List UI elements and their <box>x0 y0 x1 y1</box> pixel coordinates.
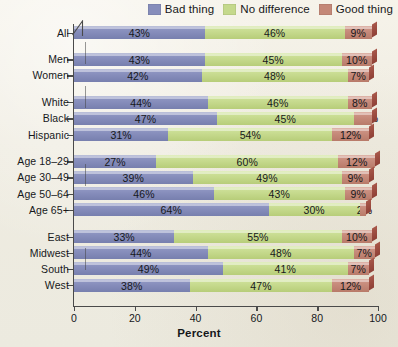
bar-segment-good: 7% <box>348 262 369 275</box>
bar-segment-nodiff: 60% <box>156 155 338 168</box>
bar-segment-good: 9% <box>345 187 372 200</box>
y-axis-label: Midwest <box>30 246 69 259</box>
bar-end-cap <box>372 91 377 107</box>
bar-row: 64%30%2% <box>74 203 378 216</box>
group-guide-line <box>85 42 86 64</box>
bar-segment-nodiff: 48% <box>202 69 348 82</box>
x-axis-tick <box>378 306 379 311</box>
bar-segment-nodiff: 55% <box>174 230 341 243</box>
x-axis-tick <box>74 306 75 311</box>
bar-end-cap <box>369 166 374 182</box>
y-axis-label: South <box>41 262 69 275</box>
bar-segment-good <box>354 112 372 125</box>
x-axis-line <box>73 306 379 307</box>
bar-value-label: 7% <box>357 247 372 259</box>
bar-end-cap <box>369 274 374 290</box>
bar-segment-bad: 47% <box>74 112 217 125</box>
bar-value-label: 43% <box>129 27 150 39</box>
bar-segment-good: 9% <box>345 26 372 39</box>
bar-end-cap <box>375 242 380 258</box>
bar-row: 27%60%12% <box>74 155 378 168</box>
bar-row: 46%43%9% <box>74 187 378 200</box>
bar-value-label: 60% <box>237 156 258 168</box>
bar-value-label: 12% <box>346 156 367 168</box>
x-axis-tick <box>256 306 257 311</box>
legend-label: No difference <box>240 3 310 15</box>
x-axis-tick-label: 60 <box>251 312 263 324</box>
bar-value-label: 30% <box>303 204 324 216</box>
bar-value-label: 44% <box>130 247 151 259</box>
bar-value-label: 43% <box>269 188 290 200</box>
bar-row: 42%48%7% <box>74 69 378 82</box>
bar-value-label: 49% <box>256 172 277 184</box>
bar-end-cap <box>369 258 374 274</box>
bar-value-label: 46% <box>267 97 288 109</box>
bar-row: 39%49%9% <box>74 171 378 184</box>
bar-value-label: 38% <box>121 280 142 292</box>
group-guide-line <box>85 86 86 108</box>
bar-value-label: 46% <box>264 27 285 39</box>
legend-item-good: Good thing <box>319 3 393 15</box>
x-axis-tick-label: 80 <box>311 312 323 324</box>
bar-value-label: 42% <box>127 70 148 82</box>
bar-value-label: 7% <box>351 70 366 82</box>
bar-row: 44%48%7% <box>74 246 378 259</box>
bar-row: 44%46%8% <box>74 96 378 109</box>
y-axis-label: Age 65+ <box>29 203 69 216</box>
bar-row: 33%55%10% <box>74 230 378 243</box>
y-axis-label: Age 30–49 <box>17 171 69 184</box>
bar-segment-bad: 38% <box>74 279 190 292</box>
bar-segment-nodiff: 54% <box>168 128 332 141</box>
bar-end-cap <box>372 107 377 123</box>
x-axis-tick-label: 20 <box>129 312 141 324</box>
y-axis-label: All <box>57 26 69 39</box>
bar-value-label: 12% <box>340 129 361 141</box>
bar-segment-nodiff: 48% <box>208 246 354 259</box>
y-axis-label: Age 18–29 <box>17 155 69 168</box>
bar-segment-good: 12% <box>332 279 368 292</box>
y-axis-label: Hispanic <box>28 128 69 141</box>
y-axis-label: East <box>48 230 69 243</box>
bar-value-label: 46% <box>133 188 154 200</box>
y-axis-label: Men <box>48 53 69 66</box>
bar-segment-good: 7% <box>348 69 369 82</box>
bar-segment-bad: 44% <box>74 246 208 259</box>
y-axis-line <box>73 24 74 306</box>
bar-end-cap <box>372 22 377 38</box>
bar-value-label: 33% <box>113 231 134 243</box>
bar-segment-good: 10% <box>342 53 372 66</box>
bar-segment-bad: 27% <box>74 155 156 168</box>
bar-segment-bad: 43% <box>74 53 205 66</box>
chart-legend: Bad thingNo differenceGood thing <box>0 1 398 17</box>
bar-value-label: 10% <box>346 54 367 66</box>
bar-value-label: 47% <box>250 280 271 292</box>
bar-value-label: 55% <box>247 231 268 243</box>
legend-label: Bad thing <box>165 3 215 15</box>
bar-value-label: 7% <box>351 263 366 275</box>
legend-item-bad: Bad thing <box>148 3 215 15</box>
bar-value-label: 8% <box>352 97 367 109</box>
bar-segment-bad: 31% <box>74 128 168 141</box>
group-guide-line <box>85 248 86 270</box>
x-axis-tick-label: 100 <box>369 312 387 324</box>
bar-segment-bad: 44% <box>74 96 208 109</box>
bar-segment-nodiff: 30% <box>269 203 360 216</box>
bar-segment-bad: 49% <box>74 262 223 275</box>
y-axis-label: Black <box>43 112 69 125</box>
bar-end-cap <box>372 226 377 242</box>
legend-item-nodiff: No difference <box>223 3 310 15</box>
bar-segment-bad: 39% <box>74 171 193 184</box>
y-axis-label: White <box>42 96 69 109</box>
x-axis-tick <box>196 306 197 311</box>
bar-segment-good: 12% <box>332 128 368 141</box>
bar-segment-bad: 42% <box>74 69 202 82</box>
bar-value-label: 44% <box>130 97 151 109</box>
bar-row: 31%54%12% <box>74 128 378 141</box>
bar-value-label: 12% <box>340 280 361 292</box>
bar-value-label: 9% <box>351 188 366 200</box>
bar-row: 43%46%9% <box>74 26 378 39</box>
bar-end-cap <box>375 150 380 166</box>
bar-value-label: 9% <box>351 27 366 39</box>
bar-value-label: 45% <box>275 113 296 125</box>
bar-segment-good: 9% <box>342 171 369 184</box>
